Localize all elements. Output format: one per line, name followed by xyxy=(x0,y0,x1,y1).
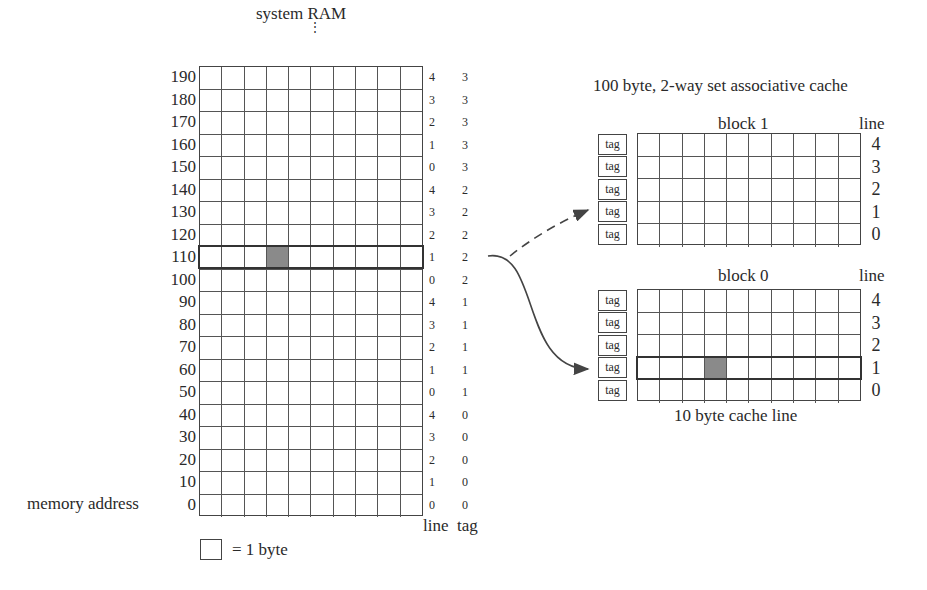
solid-arrow-to-block-0 xyxy=(488,256,588,369)
mapping-arrows xyxy=(0,0,927,590)
dashed-arrow-to-block-1 xyxy=(510,210,588,256)
